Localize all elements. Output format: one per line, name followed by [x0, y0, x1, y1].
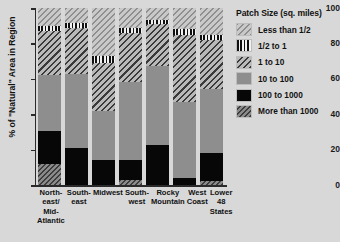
bar-segment[interactable] [200, 40, 222, 90]
bar-segment[interactable] [92, 63, 114, 111]
legend-swatch-icon [236, 56, 252, 69]
bar-segment[interactable] [65, 148, 87, 185]
x-tick-label-line: Atlantic [37, 216, 65, 225]
bar-segment[interactable] [200, 89, 222, 153]
bar-segment[interactable] [200, 8, 222, 35]
legend-item-label: 10 to 100 [258, 74, 294, 84]
legend-title: Patch Size (sq. miles) [236, 8, 338, 18]
bar-segment[interactable] [119, 82, 141, 160]
bar-segment[interactable] [92, 56, 114, 63]
x-axis-labels: North-east/Mid-AtlanticSouth-eastMidwest… [36, 188, 225, 240]
legend: Patch Size (sq. miles) Less than 1/21/2 … [232, 8, 338, 121]
plot-area [36, 8, 225, 185]
y-tick-mark [31, 185, 35, 187]
legend-item[interactable]: 1 to 10 [232, 56, 338, 69]
legend-item-label: 1/2 to 1 [258, 41, 287, 51]
bar-segment[interactable] [173, 8, 195, 29]
bar-segment[interactable] [173, 35, 195, 102]
bar-segment[interactable] [65, 74, 87, 147]
y-tick-mark [31, 79, 35, 81]
bar-segment[interactable] [65, 8, 87, 23]
bar-column[interactable] [92, 8, 114, 185]
x-tick-label-line: North- [37, 188, 65, 197]
x-tick-label: Lower48 States [210, 188, 233, 240]
bar-segment[interactable] [92, 8, 114, 56]
bar-segment[interactable] [146, 24, 168, 66]
bar-segment[interactable] [173, 178, 195, 185]
y-tick-mark [31, 114, 35, 116]
x-tick-label-line: Midwest [93, 188, 123, 197]
legend-item-label: 100 to 1000 [258, 90, 303, 100]
legend-item[interactable]: Less than 1/2 [232, 23, 338, 36]
legend-item[interactable]: More than 1000 [232, 105, 338, 118]
bar-column[interactable] [38, 8, 60, 185]
bar-column[interactable] [146, 8, 168, 185]
bar-segment[interactable] [119, 160, 141, 179]
legend-item-label: Less than 1/2 [258, 25, 311, 35]
bar-segment[interactable] [146, 145, 168, 185]
x-tick-label-line: Mid- [37, 207, 65, 216]
x-tick-label-line: Lower [210, 188, 233, 197]
x-tick-label-line: South- [67, 188, 91, 197]
bar-group [36, 8, 225, 185]
legend-swatch-icon [236, 72, 252, 85]
legend-items: Less than 1/21/2 to 11 to 1010 to 100100… [232, 23, 338, 118]
bar-segment[interactable] [38, 131, 60, 164]
bar-column[interactable] [173, 8, 195, 185]
x-tick-label: South-east [67, 188, 91, 240]
x-tick-label: South-west [125, 188, 149, 240]
y-tick-mark [31, 43, 35, 45]
x-tick-label: RockyMountain [151, 188, 185, 240]
y-axis-title: % of "Natural" Area in Region [7, 2, 17, 152]
bar-column[interactable] [65, 8, 87, 185]
x-tick-label-line: Coast [187, 197, 208, 206]
bar-segment[interactable] [119, 33, 141, 83]
bar-segment[interactable] [38, 164, 60, 185]
x-tick-label-line: Rocky [151, 188, 185, 197]
y-tick-mark [31, 8, 35, 10]
legend-item[interactable]: 10 to 100 [232, 72, 338, 85]
bar-segment[interactable] [38, 31, 60, 75]
bar-segment[interactable] [119, 180, 141, 185]
bar-segment[interactable] [65, 28, 87, 74]
bar-column[interactable] [200, 8, 222, 185]
x-tick-label-line: east/ [37, 197, 65, 206]
legend-swatch-icon [236, 39, 252, 52]
x-tick-label: WestCoast [187, 188, 208, 240]
legend-swatch-icon [236, 89, 252, 102]
x-tick-label-line: east [67, 197, 91, 206]
bar-segment[interactable] [173, 102, 195, 178]
x-tick-label-line: west [125, 197, 149, 206]
bar-segment[interactable] [200, 153, 222, 180]
legend-item[interactable]: 1/2 to 1 [232, 39, 338, 52]
x-tick-label-line: Mountain [151, 197, 185, 206]
bar-segment[interactable] [119, 8, 141, 27]
legend-item[interactable]: 100 to 1000 [232, 89, 338, 102]
bar-segment[interactable] [200, 181, 222, 185]
bar-segment[interactable] [38, 75, 60, 131]
bar-segment[interactable] [38, 8, 60, 26]
x-tick-label-line: 48 States [210, 197, 233, 216]
legend-item-label: More than 1000 [258, 106, 318, 116]
x-tick-label-line: West [187, 188, 208, 197]
bar-column[interactable] [119, 8, 141, 185]
bar-segment[interactable] [146, 8, 168, 20]
chart-figure: 020406080100 % of "Natural" Area in Regi… [0, 0, 340, 242]
y-tick-mark [31, 150, 35, 152]
bar-segment[interactable] [146, 66, 168, 145]
y-tick-label: 20 [310, 145, 340, 153]
legend-swatch-icon [236, 23, 252, 36]
legend-item-label: 1 to 10 [258, 57, 284, 67]
x-axis-line [35, 185, 227, 187]
legend-swatch-icon [236, 105, 252, 118]
x-tick-label: Midwest [93, 188, 123, 240]
y-tick-label: 0 [310, 181, 340, 189]
bar-segment[interactable] [92, 111, 114, 161]
x-tick-label-line: South- [125, 188, 149, 197]
bar-segment[interactable] [92, 160, 114, 185]
x-tick-label: North-east/Mid-Atlantic [37, 188, 65, 240]
